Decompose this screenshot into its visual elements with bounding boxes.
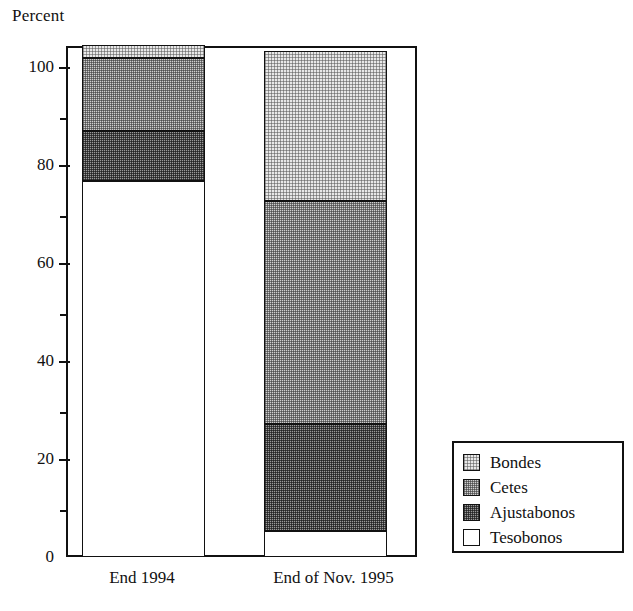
legend-label-tesobonos: Tesobonos — [490, 529, 562, 546]
bar-end-nov-1995[interactable] — [264, 48, 387, 555]
y-tick-70 — [60, 216, 68, 218]
x-axis-label-end-nov-1995: End of Nov. 1995 — [236, 568, 431, 588]
y-tick-label-80: 80 — [8, 156, 54, 173]
bar-segment-ajustabonos[interactable] — [82, 131, 205, 181]
y-tick-label-20: 20 — [8, 450, 54, 467]
y-axis-caption: Percent — [12, 6, 64, 26]
bar-segment-cetes[interactable] — [82, 58, 205, 131]
bar-segment-ajustabonos[interactable] — [264, 424, 387, 531]
legend-label-bondes: Bondes — [490, 454, 541, 471]
y-tick-50 — [60, 314, 68, 316]
y-tick-80 — [59, 165, 70, 167]
y-tick-label-100: 100 — [8, 58, 54, 75]
bar-segment-tesobonos[interactable] — [264, 531, 387, 557]
y-tick-40 — [59, 361, 70, 363]
legend-item-tesobonos[interactable]: Tesobonos — [463, 525, 622, 550]
legend-label-ajustabonos: Ajustabonos — [490, 504, 575, 521]
x-axis-label-end-1994: End 1994 — [62, 568, 222, 588]
y-tick-100 — [59, 67, 70, 69]
y-tick-label-40: 40 — [8, 352, 54, 369]
bar-segment-bondes[interactable] — [82, 45, 205, 58]
y-tick-20 — [59, 459, 70, 461]
legend: Bondes Cetes Ajustabonos Tesobonos — [452, 441, 624, 553]
legend-item-bondes[interactable]: Bondes — [463, 450, 622, 475]
plot-frame — [66, 46, 417, 557]
bar-end-1994[interactable] — [82, 48, 205, 555]
y-tick-90 — [60, 118, 68, 120]
stacked-bar-chart: Percent 100 80 60 40 20 0 — [0, 0, 633, 611]
legend-item-ajustabonos[interactable]: Ajustabonos — [463, 500, 622, 525]
legend-swatch-tesobonos — [463, 529, 480, 546]
legend-swatch-bondes — [463, 454, 480, 471]
legend-item-cetes[interactable]: Cetes — [463, 475, 622, 500]
legend-swatch-cetes — [463, 479, 480, 496]
plot-area — [68, 48, 415, 555]
y-tick-30 — [60, 412, 68, 414]
y-tick-10 — [60, 510, 68, 512]
bar-segment-cetes[interactable] — [264, 201, 387, 423]
legend-label-cetes: Cetes — [490, 479, 528, 496]
legend-swatch-ajustabonos — [463, 504, 480, 521]
y-tick-label-60: 60 — [8, 254, 54, 271]
bar-segment-tesobonos[interactable] — [82, 181, 205, 557]
bar-segment-bondes[interactable] — [264, 51, 387, 202]
y-tick-60 — [59, 263, 70, 265]
y-tick-label-0: 0 — [8, 548, 54, 565]
